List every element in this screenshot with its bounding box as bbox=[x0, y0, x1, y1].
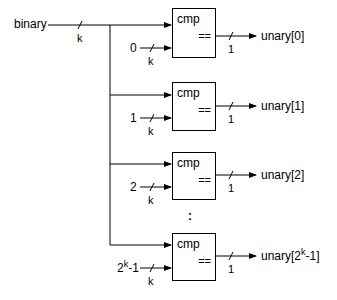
comparator-block-2: cmp == bbox=[172, 152, 216, 200]
output-label-0: unary[0] bbox=[261, 30, 304, 42]
ellipsis: : bbox=[188, 210, 192, 222]
constant-width-label-last: k bbox=[148, 275, 154, 287]
cmp-label: cmp bbox=[177, 86, 200, 100]
constant-label-0: 0 bbox=[130, 42, 137, 54]
constant-base: 2 bbox=[117, 261, 124, 275]
comparator-block-last: cmp == bbox=[172, 233, 216, 281]
cmp-label: cmp bbox=[177, 237, 200, 251]
output-label-last: unary[2k-1] bbox=[261, 250, 320, 262]
constant-label-1: 1 bbox=[130, 112, 137, 124]
constant-width-label-0: k bbox=[148, 55, 154, 67]
output-base: unary[2 bbox=[261, 249, 301, 263]
constant-width-label-1: k bbox=[148, 125, 154, 137]
output-width-label-0: 1 bbox=[228, 43, 234, 55]
equals-op-label: == bbox=[198, 104, 211, 116]
output-suffix: -1] bbox=[306, 249, 320, 263]
equals-op-label: == bbox=[198, 255, 211, 267]
output-label-1: unary[1] bbox=[261, 100, 304, 112]
cmp-label: cmp bbox=[177, 12, 200, 26]
comparator-block-1: cmp == bbox=[172, 82, 216, 131]
constant-label-last: 2k-1 bbox=[117, 262, 139, 274]
constant-label-2: 2 bbox=[130, 181, 137, 193]
binary-input-label: binary bbox=[14, 18, 47, 30]
equals-op-label: == bbox=[198, 174, 211, 186]
cmp-label: cmp bbox=[177, 156, 200, 170]
output-width-label-1: 1 bbox=[228, 113, 234, 125]
output-width-label-last: 1 bbox=[228, 263, 234, 275]
constant-suffix: -1 bbox=[128, 261, 139, 275]
comparator-block-0: cmp == bbox=[172, 8, 216, 58]
constant-width-label-2: k bbox=[148, 194, 154, 206]
output-label-2: unary[2] bbox=[261, 169, 304, 181]
output-width-label-2: 1 bbox=[228, 182, 234, 194]
binary-width-label: k bbox=[77, 32, 83, 44]
equals-op-label: == bbox=[198, 30, 211, 42]
